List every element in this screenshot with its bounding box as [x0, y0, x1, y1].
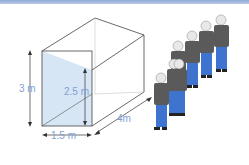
- person-figure: [185, 31, 200, 88]
- label-width: 1.5 m: [51, 131, 76, 141]
- label-depth: 4m: [117, 114, 131, 124]
- people-queue: [154, 15, 229, 130]
- box-diagram: [0, 0, 249, 165]
- person-figure: [154, 73, 169, 130]
- label-height-inner: 2.5 m: [64, 87, 89, 97]
- label-height-total: 3 m: [19, 84, 36, 94]
- person-figure: [214, 15, 229, 72]
- person-figure: [199, 21, 214, 78]
